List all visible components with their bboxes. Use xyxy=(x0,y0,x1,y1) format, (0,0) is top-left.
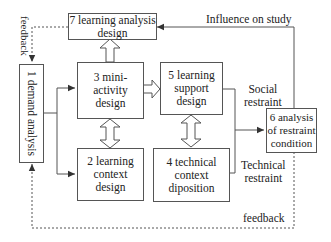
label-technical-line1: Technical xyxy=(241,159,286,172)
node-3-label-line2: design xyxy=(78,97,143,110)
label-influence-on-study: Influence on study xyxy=(206,13,292,26)
node-4-label-line1: 4 technical xyxy=(154,156,229,169)
node-4-technical-context-diposition: 4 technical context diposition xyxy=(153,148,230,202)
hollow-double-arrow-3-2 xyxy=(100,119,120,148)
node-6-label-line2: of restraint xyxy=(268,124,316,137)
label-technical-restraint: Technical restraint xyxy=(241,159,286,185)
node-2-label-line1: 2 learning xyxy=(78,155,143,168)
hollow-arrow-3-to-5 xyxy=(143,80,160,98)
node-7-label-line2: design xyxy=(69,27,155,40)
node-3-label-line1: 3 mini-activity xyxy=(78,71,143,97)
edge-1-to-3 xyxy=(43,88,75,113)
hollow-double-arrow-5-4 xyxy=(181,115,201,147)
label-feedback-top: feedback xyxy=(19,16,31,56)
label-technical-line2: restraint xyxy=(241,172,286,185)
edge-7-to-1-feedback xyxy=(32,27,68,62)
node-5-label-line1: 5 learning xyxy=(161,69,222,82)
node-1-label: 1 demand analysis xyxy=(25,71,38,156)
node-1-demand-analysis: 1 demand analysis xyxy=(19,64,44,163)
label-feedback-bottom: feedback xyxy=(243,212,285,225)
node-6-analysis-of-restraint-condition: 6 analysis of restraint condition xyxy=(266,108,317,153)
node-7-label-line1: 7 learning analysis xyxy=(69,14,155,27)
node-5-learning-support-design: 5 learning support design xyxy=(160,62,223,115)
node-5-label-line2: support design xyxy=(161,82,222,108)
node-2-label-line2: context design xyxy=(78,168,143,194)
node-6-label-line1: 6 analysis xyxy=(268,111,316,124)
edge-1-to-2 xyxy=(57,113,75,174)
node-7-learning-analysis-design: 7 learning analysis design xyxy=(68,13,157,40)
hollow-arrow-3-to-7 xyxy=(100,39,120,62)
label-social-line2: restraint xyxy=(244,96,282,109)
node-3-mini-activity-design: 3 mini-activity design xyxy=(77,62,144,119)
node-2-learning-context-design: 2 learning context design xyxy=(77,148,144,201)
label-social-line1: Social xyxy=(244,83,282,96)
node-6-label-line3: condition xyxy=(268,137,316,150)
node-4-label-line2: context diposition xyxy=(154,169,229,195)
label-social-restraint: Social restraint xyxy=(244,83,282,109)
